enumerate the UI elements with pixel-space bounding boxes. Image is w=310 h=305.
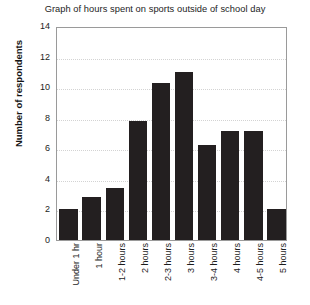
bar — [175, 72, 193, 240]
y-tick-label: 6 — [24, 144, 50, 153]
plot-area — [56, 27, 287, 241]
x-tick-label: 2-3 hours — [164, 243, 173, 281]
x-tick-label: 3-4 hours — [210, 243, 219, 281]
x-tick-label: 4 hours — [233, 243, 242, 273]
y-tick-label: 2 — [24, 205, 50, 214]
y-tick-label: 8 — [24, 114, 50, 123]
x-tick-label: 3 hours — [187, 243, 196, 273]
bar — [244, 131, 262, 240]
x-tick-label: 1-2 hours — [118, 243, 127, 281]
y-tick-label: 14 — [24, 22, 50, 31]
bar — [129, 121, 147, 240]
x-tick-label: 2 hours — [141, 243, 150, 273]
bar-series — [57, 28, 286, 240]
y-tick-label: 10 — [24, 83, 50, 92]
x-axis-ticks: Under 1 hr1 hour1-2 hours2 hours2-3 hour… — [56, 243, 287, 305]
bar — [106, 188, 124, 240]
y-axis-label: Number of respondents — [13, 19, 24, 169]
chart-title: Graph of hours spent on sports outside o… — [0, 4, 310, 14]
x-tick-label: 5 hours — [279, 243, 288, 273]
y-tick-label: 4 — [24, 175, 50, 184]
y-tick-label: 0 — [24, 236, 50, 245]
y-tick-label: 12 — [24, 53, 50, 62]
bar-chart: Graph of hours spent on sports outside o… — [0, 0, 310, 305]
bar — [59, 209, 77, 240]
bar — [152, 83, 170, 240]
bar — [221, 131, 239, 240]
bar — [267, 209, 285, 240]
bar — [82, 197, 100, 240]
x-tick-label: 1 hour — [95, 243, 104, 269]
x-tick-label: Under 1 hr — [72, 243, 81, 286]
x-tick-label: 4-5 hours — [256, 243, 265, 281]
bar — [198, 145, 216, 240]
